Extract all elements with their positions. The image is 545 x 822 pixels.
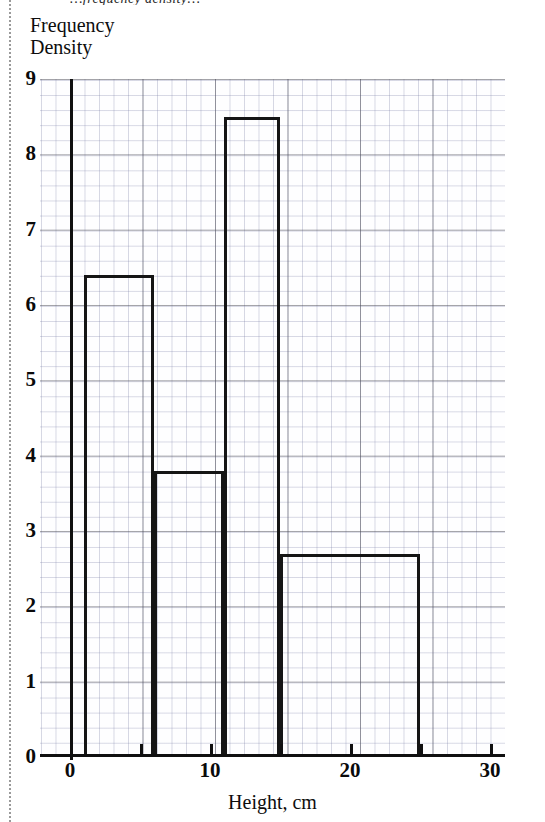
histogram-bar [154,471,224,757]
x-axis-tick-label: 10 [187,760,233,781]
y-axis-tick-label: 5 [10,369,36,390]
y-axis-tick-label: 6 [10,294,36,315]
y-axis-tick-label: 7 [10,219,36,240]
y-axis-tick-label: 0 [10,746,36,767]
x-axis-tick-labels: 0102030 [40,760,505,790]
histogram-bar [84,275,154,757]
x-axis-line [40,754,505,757]
plot-area [40,79,505,757]
y-axis-tick-label: 1 [10,671,36,692]
histogram-bar [224,117,280,757]
y-axis-tick-label: 3 [10,520,36,541]
x-axis-tick-label: 0 [47,760,93,781]
x-axis-tick-label: 20 [327,760,373,781]
y-axis-title: Frequency Density [30,14,114,59]
histogram-bar [280,554,420,757]
y-axis-line [70,79,73,760]
y-axis-tick-labels: 0123456789 [0,79,36,769]
x-axis-title: Height, cm [0,791,545,814]
y-axis-tick-label: 8 [10,143,36,164]
y-axis-tick-label: 2 [10,595,36,616]
y-axis-tick-label: 4 [10,445,36,466]
x-axis-tick-label: 30 [467,760,513,781]
clipped-header-text: …frequency density… [70,0,490,5]
y-axis-tick-label: 9 [10,68,36,89]
